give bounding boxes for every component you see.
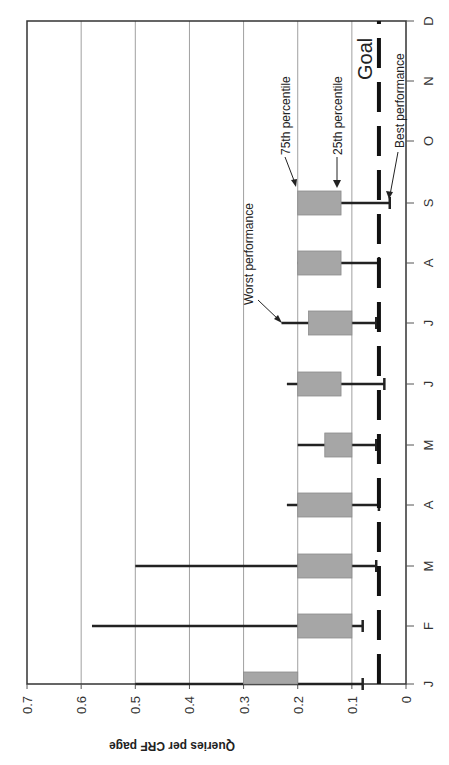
iqr-box	[298, 554, 352, 578]
iqr-box	[325, 433, 352, 457]
box-plot-chart: 00.10.20.30.40.50.60.7 JFMAMJJASOND Quer…	[0, 0, 449, 765]
iqr-box	[244, 672, 298, 684]
x-category-label: J	[421, 681, 436, 688]
x-category-label: M	[421, 440, 436, 451]
x-category-label: D	[421, 16, 436, 25]
box-month-6	[281, 311, 376, 335]
annotation-best-performance: Best performance	[393, 53, 407, 148]
y-axis-ticks: 00.10.20.30.40.50.60.7	[20, 684, 414, 714]
iqr-box	[298, 191, 341, 215]
y-tick-label: 0.7	[20, 696, 35, 714]
annotation-best-arrow	[390, 152, 398, 195]
y-tick-label: 0.2	[291, 696, 306, 714]
y-tick-label: 0.6	[74, 696, 89, 714]
plot-area-frame	[27, 21, 406, 684]
x-category-label: S	[421, 198, 436, 207]
iqr-box	[298, 493, 352, 517]
iqr-box	[298, 372, 341, 396]
annotation-worst-performance: Worst performance	[242, 203, 256, 305]
y-tick-label: 0.4	[182, 696, 197, 714]
goal-label: Goal	[354, 38, 376, 80]
box-month-0	[135, 672, 362, 690]
x-category-label: A	[421, 500, 436, 509]
gridlines	[81, 21, 352, 684]
y-tick-label: 0.3	[237, 696, 252, 714]
x-category-label: N	[421, 76, 436, 85]
x-category-label: O	[421, 136, 436, 146]
x-category-label: A	[421, 258, 436, 267]
box-series	[92, 191, 390, 690]
y-axis-title: Queries per CRF page	[109, 739, 235, 753]
iqr-box	[298, 251, 341, 275]
x-category-label: J	[421, 320, 436, 327]
x-category-label: F	[421, 622, 436, 630]
box-month-3	[287, 493, 379, 517]
annotation-75th-percentile: 75th percentile	[279, 76, 293, 155]
x-category-label: J	[421, 381, 436, 388]
arrowhead-icon	[386, 191, 393, 199]
annotation-75th-arrow	[285, 157, 295, 183]
arrowhead-icon	[333, 180, 341, 188]
box-month-5	[287, 372, 384, 396]
box-month-8	[298, 191, 390, 215]
annotation-worst-arrow	[258, 300, 279, 320]
box-month-4	[298, 433, 377, 457]
x-axis-categories: JFMAMJJASOND	[406, 16, 436, 687]
annotation-25th-percentile: 25th percentile	[331, 76, 345, 155]
x-category-label: M	[421, 561, 436, 572]
box-month-7	[298, 251, 379, 275]
y-tick-label: 0.5	[128, 696, 143, 714]
iqr-box	[298, 614, 352, 638]
y-tick-label: 0.1	[345, 696, 360, 714]
y-tick-label: 0	[399, 696, 414, 703]
iqr-box	[309, 311, 352, 335]
box-month-2	[135, 554, 376, 578]
box-month-1	[92, 614, 363, 638]
arrowhead-icon	[291, 179, 297, 187]
